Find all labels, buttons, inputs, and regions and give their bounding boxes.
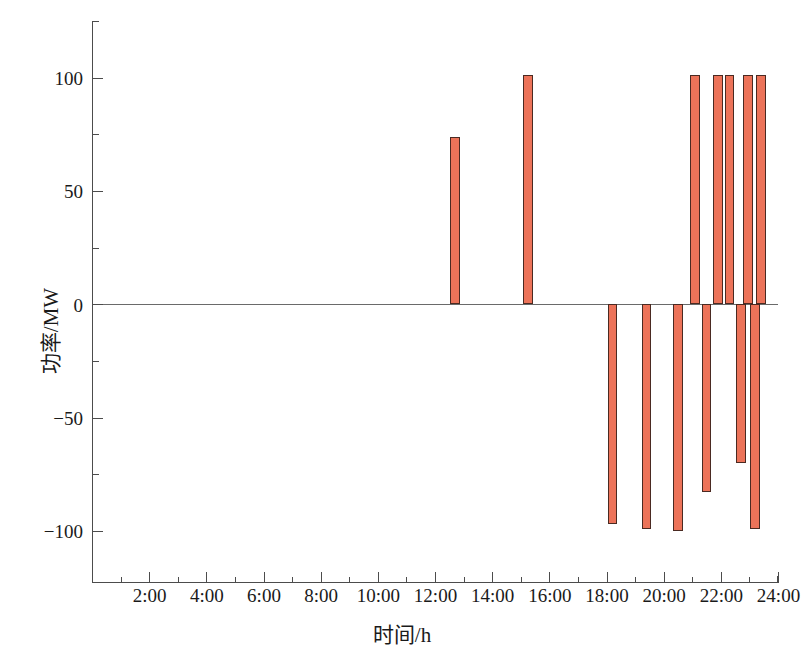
y-tick-50: 50 (92, 191, 103, 192)
y-tick-100: 100 (92, 78, 103, 79)
x-minor-tick (578, 577, 579, 583)
bar-18:12 (608, 304, 617, 524)
y-tick--100: −100 (92, 531, 103, 532)
x-tick-label: 18:00 (585, 586, 628, 605)
y-tick-0: 0 (92, 304, 103, 305)
y-minor-tick (92, 248, 99, 249)
x-tick-label: 14:00 (471, 586, 514, 605)
y-axis-line (92, 21, 93, 583)
y-tick-label: −100 (44, 522, 83, 541)
y-tick--50: −50 (92, 418, 103, 419)
x-tick-14:00: 14:00 (492, 572, 493, 583)
y-minor-tick (92, 361, 99, 362)
bar-12:42 (450, 137, 459, 305)
y-tick-label: 0 (74, 295, 84, 314)
bar-21:54 (713, 75, 722, 304)
y-tick-label: 50 (64, 182, 83, 201)
x-tick-label: 22:00 (700, 586, 743, 605)
x-tick-12:00: 12:00 (435, 572, 436, 583)
bar-19:24 (642, 304, 651, 528)
plot-area: −100−50050100 2:004:006:008:0010:0012:00… (92, 21, 778, 583)
x-minor-tick (521, 577, 522, 583)
x-tick-4:00: 4:00 (206, 572, 207, 583)
x-minor-tick (464, 577, 465, 583)
x-tick-20:00: 20:00 (664, 572, 665, 583)
x-tick-label: 8:00 (304, 586, 338, 605)
y-tick-label: −50 (53, 409, 83, 428)
y-axis-title: 功率/MW (34, 288, 64, 374)
bar-21:30 (702, 304, 711, 492)
x-tick-label: 20:00 (643, 586, 686, 605)
x-tick-18:00: 18:00 (607, 572, 608, 583)
x-minor-tick (406, 577, 407, 583)
bar-23:12 (750, 304, 759, 528)
x-tick-24:00: 24:00 (778, 572, 779, 583)
bar-22:54 (743, 75, 752, 304)
x-tick-10:00: 10:00 (378, 572, 379, 583)
x-tick-label: 24:00 (757, 586, 800, 605)
x-minor-tick (235, 577, 236, 583)
x-minor-tick (635, 577, 636, 583)
x-tick-8:00: 8:00 (321, 572, 322, 583)
x-tick-label: 2:00 (133, 586, 167, 605)
y-tick-label: 100 (55, 69, 84, 88)
x-minor-tick (178, 577, 179, 583)
x-tick-2:00: 2:00 (149, 572, 150, 583)
chart-figure: 功率/MW 时间/h −100−50050100 2:004:006:008:0… (0, 0, 804, 662)
y-minor-tick (92, 474, 99, 475)
bar-21:06 (690, 75, 699, 304)
x-tick-label: 4:00 (190, 586, 224, 605)
x-tick-label: 12:00 (414, 586, 457, 605)
x-tick-label: 6:00 (247, 586, 281, 605)
x-tick-22:00: 22:00 (721, 572, 722, 583)
y-axis-top-cap (92, 21, 99, 22)
bar-20:30 (673, 304, 682, 531)
x-axis-title: 时间/h (0, 618, 804, 648)
x-minor-tick (121, 577, 122, 583)
x-minor-tick (292, 577, 293, 583)
x-tick-16:00: 16:00 (549, 572, 550, 583)
x-minor-tick (692, 577, 693, 583)
bar-22:18 (725, 75, 734, 304)
x-minor-tick (349, 577, 350, 583)
x-tick-6:00: 6:00 (264, 572, 265, 583)
bar-23:24 (756, 75, 765, 304)
x-minor-tick (749, 577, 750, 583)
bar-22:42 (736, 304, 745, 463)
x-tick-label: 16:00 (528, 586, 571, 605)
x-tick-label: 10:00 (357, 586, 400, 605)
bar-15:15 (523, 75, 532, 304)
y-minor-tick (92, 134, 99, 135)
